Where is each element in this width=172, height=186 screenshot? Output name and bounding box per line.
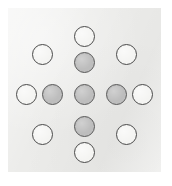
node-bottom-right xyxy=(116,124,137,145)
node-left xyxy=(42,84,63,105)
node-bottom xyxy=(74,142,95,163)
node-top-right xyxy=(116,44,137,65)
lattice-figure xyxy=(0,0,172,186)
node-top-left xyxy=(32,44,53,65)
node-right xyxy=(106,84,127,105)
node-far-right xyxy=(132,84,153,105)
node-bottom-left xyxy=(32,124,53,145)
node-up xyxy=(74,52,95,73)
node-center xyxy=(74,84,95,105)
node-top xyxy=(74,26,95,47)
lattice-panel xyxy=(8,8,161,172)
node-far-left xyxy=(16,84,37,105)
node-down xyxy=(74,116,95,137)
